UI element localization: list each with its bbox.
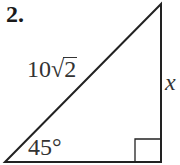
vertical-leg-label: x — [165, 68, 176, 96]
hypotenuse-coefficient: 10 — [27, 56, 51, 82]
hypotenuse-label: 10√2 — [27, 55, 77, 83]
hypotenuse-radicand: 2 — [63, 57, 77, 80]
square-root-icon: √ — [51, 55, 64, 83]
right-angle-marker — [135, 139, 161, 162]
angle-label: 45° — [28, 133, 62, 161]
geometry-figure: 2. 10√2 x 45° — [0, 0, 180, 165]
